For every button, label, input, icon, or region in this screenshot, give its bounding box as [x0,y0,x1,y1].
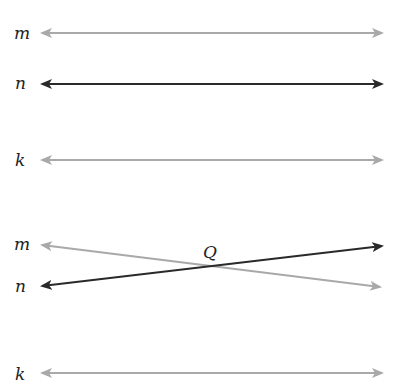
point-label-q: Q [203,242,217,262]
top-figure: m n k [14,23,382,170]
line-label-m: m [14,234,30,254]
line-label-m: m [14,23,30,43]
line-label-n: n [15,276,26,296]
line-label-k: k [15,364,25,384]
bottom-figure: m n Q k [14,234,382,384]
line-label-n: n [15,73,26,93]
parallel-lines-diagram: m n k m n Q k [0,0,403,388]
line-label-k: k [15,150,25,170]
